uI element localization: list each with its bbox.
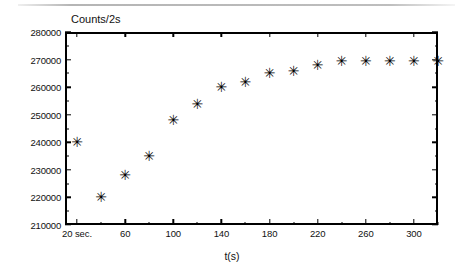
data-point-marker: ✳ [216,80,228,94]
x-major-tick [221,219,222,225]
x-minor-tick [245,222,246,226]
data-point-marker: ✳ [384,54,396,68]
y-major-tick [65,31,71,32]
x-minor-tick [197,222,198,226]
x-tick-label: 180 [262,228,278,239]
y-major-tick [65,197,71,198]
x-major-tick-top [269,32,270,37]
x-major-tick [365,219,366,225]
y-major-tick-right [432,169,438,170]
data-point-marker: ✳ [264,66,276,80]
data-point-marker: ✳ [240,75,252,89]
x-major-tick-top [221,32,222,37]
y-major-tick-right [432,142,438,143]
y-tick-label: 250000 [30,109,61,120]
data-point-marker: ✳ [167,113,179,127]
y-tick-label: 260000 [30,82,61,93]
y-minor-tick-right [435,128,439,129]
y-major-tick-right [432,197,438,198]
x-minor-tick [101,222,102,226]
y-minor-tick [65,183,69,184]
x-major-tick [124,219,125,225]
y-tick-label: 280000 [30,27,61,38]
y-major-tick-right [432,86,438,87]
y-minor-tick-right [435,45,439,46]
x-major-tick-top [365,32,366,37]
y-minor-tick [65,100,69,101]
data-point-marker: ✳ [71,135,83,149]
x-tick-label: 260 [358,228,374,239]
x-major-tick [173,219,174,225]
data-point-marker: ✳ [336,54,348,68]
y-axis-title: Counts/2s [71,13,121,25]
y-minor-tick [65,156,69,157]
y-major-tick [65,224,71,225]
x-major-tick-top [76,32,77,37]
y-minor-tick [65,128,69,129]
data-point-marker: ✳ [288,64,300,78]
data-point-marker: ✳ [119,168,131,182]
x-tick-label: 140 [214,228,230,239]
x-tick-label: 60 [120,228,130,239]
x-minor-tick [438,222,439,226]
x-major-tick [76,219,77,225]
x-minor-tick [149,222,150,226]
y-tick-label: 240000 [30,137,61,148]
data-point-marker: ✳ [143,149,155,163]
y-tick-label: 210000 [30,220,61,231]
data-point-marker: ✳ [360,54,372,68]
x-major-tick-top [413,32,414,37]
x-tick-label: 220 [310,228,326,239]
y-minor-tick-right [435,73,439,74]
x-tick-label: 300 [406,228,422,239]
x-minor-tick [389,222,390,226]
plot-area-frame [65,32,438,225]
data-point-marker: ✳ [95,190,107,204]
x-major-tick-top [173,32,174,37]
x-major-tick [317,219,318,225]
x-minor-tick [341,222,342,226]
chart-figure: Counts/2s 280000270000260000250000240000… [0,0,455,279]
y-major-tick [65,169,71,170]
y-major-tick-right [432,114,438,115]
y-tick-label: 220000 [30,192,61,203]
y-tick-label: 230000 [30,164,61,175]
y-minor-tick [65,211,69,212]
y-minor-tick-right [435,156,439,157]
data-point-marker: ✳ [312,58,324,72]
y-major-tick [65,142,71,143]
y-tick-label: 270000 [30,54,61,65]
data-point-marker: ✳ [408,54,420,68]
y-major-tick-right [432,31,438,32]
y-major-tick [65,114,71,115]
y-axis-tick-labels: 2800002700002600002500002400002300002200… [0,0,61,279]
x-major-tick-top [124,32,125,37]
x-tick-label: 20 sec. [62,228,92,239]
y-major-tick [65,86,71,87]
x-minor-tick [293,222,294,226]
y-minor-tick [65,73,69,74]
data-point-marker: ✳ [191,97,203,111]
data-point-marker: ✳ [432,54,444,68]
y-minor-tick [65,45,69,46]
y-minor-tick-right [435,211,439,212]
x-axis-title: t(s) [224,250,239,262]
x-tick-label: 100 [166,228,182,239]
x-major-tick-top [317,32,318,37]
y-major-tick [65,59,71,60]
x-major-tick [269,219,270,225]
x-major-tick [413,219,414,225]
y-minor-tick-right [435,100,439,101]
y-minor-tick-right [435,183,439,184]
